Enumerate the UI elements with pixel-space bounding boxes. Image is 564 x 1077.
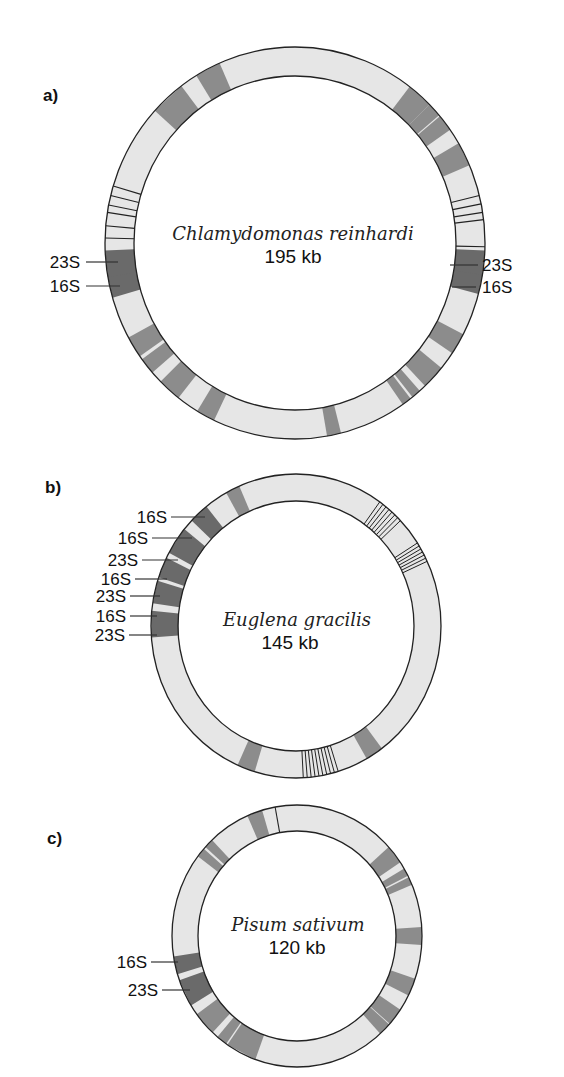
genome-size-a: 195 kb (264, 246, 321, 267)
genome-size-c: 120 kb (268, 937, 325, 958)
genome-size-b: 145 kb (261, 632, 318, 653)
species-name-b: Euglena gracilis (222, 609, 371, 630)
chloroplast-genome-maps: a) Chlamydomonas reinhardi 195 kb 23S16S… (0, 0, 564, 1077)
ring-inner-edge (198, 831, 396, 1041)
rrna-gene-label: 16S (117, 953, 147, 972)
species-name-c: Pisum sativum (230, 914, 364, 935)
rrna-gene-label: 23S (108, 551, 138, 570)
trna-gene-line (456, 246, 485, 247)
rrna-gene-label: 23S (95, 626, 125, 645)
species-name-a: Chlamydomonas reinhardi (172, 223, 413, 244)
rrna-gene-label: 16S (50, 277, 80, 296)
panel-label-b: b) (45, 478, 61, 497)
panel-c: c) Pisum sativum 120 kb 16S23S (47, 805, 422, 1067)
genome-ring-c (172, 805, 422, 1067)
rrna-gene-label: 16S (137, 508, 167, 527)
rrna-gene-label: 16S (118, 529, 148, 548)
panel-label-a: a) (43, 86, 58, 105)
panel-a: a) Chlamydomonas reinhardi 195 kb 23S16S… (43, 47, 512, 439)
rrna-gene-band (151, 611, 178, 638)
rrna-gene-label: 23S (50, 253, 80, 272)
panel-b: b) Euglena gracilis 145 kb 16S16S23S16S2… (45, 474, 441, 778)
rrna-gene-label: 16S (482, 278, 512, 297)
trna-gene-line (105, 238, 134, 239)
rrna-gene-label: 23S (96, 587, 126, 606)
gene-band (396, 927, 422, 945)
rrna-gene-label: 16S (96, 607, 126, 626)
rrna-gene-label: 23S (482, 256, 512, 275)
panel-label-c: c) (47, 829, 62, 848)
rrna-gene-label: 23S (128, 981, 158, 1000)
